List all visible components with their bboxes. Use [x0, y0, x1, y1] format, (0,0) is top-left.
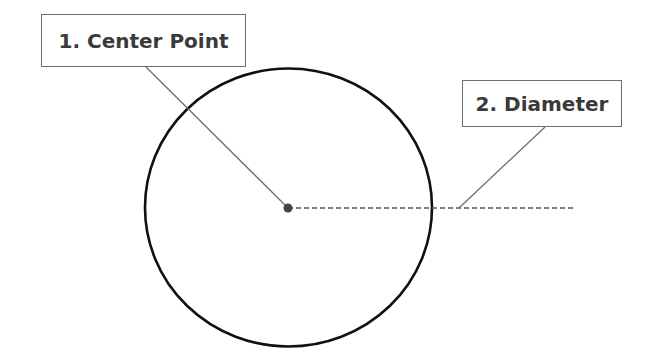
diameter-leader-line [459, 127, 545, 208]
diameter-label-text: 2. Diameter [476, 92, 609, 116]
diameter-label: 2. Diameter [462, 80, 622, 127]
center-point-label-text: 1. Center Point [59, 29, 229, 53]
center-point-label: 1. Center Point [41, 14, 246, 67]
center-point-dot [284, 204, 293, 213]
